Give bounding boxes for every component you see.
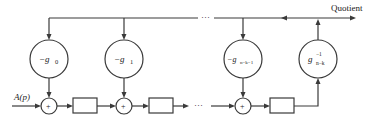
svg-text:+: +	[46, 102, 51, 111]
adder-1: +	[116, 98, 132, 114]
svg-text:+: +	[121, 102, 126, 111]
path-ellipsis: ···	[194, 100, 203, 110]
svg-text:−g: −g	[227, 55, 236, 64]
delay-element-0	[73, 98, 97, 113]
arrow-down-icon	[122, 34, 127, 40]
arrow-up-icon	[316, 78, 321, 84]
delay-element-1	[149, 98, 173, 113]
arrow-right-icon	[67, 104, 73, 109]
arrow-down-icon	[241, 92, 246, 98]
arrow-right-icon	[229, 104, 235, 109]
arrow-right-icon	[264, 104, 270, 109]
svg-text:0: 0	[55, 58, 58, 65]
division-circuit-diagram: ··· Quotient −g 0 −g 1 −g n−k−1 g −1 n−k	[0, 0, 365, 125]
svg-text:n−k−1: n−k−1	[240, 60, 254, 65]
arrow-up-icon	[316, 19, 321, 25]
delay-element-last	[270, 98, 294, 113]
multiplier-inverse-g-n-k: g −1 n−k	[299, 40, 337, 78]
multiplier-g1: −g 1	[105, 40, 143, 78]
arrow-down-icon	[47, 92, 52, 98]
adder-0: +	[41, 98, 57, 114]
arrow-right-icon	[35, 104, 41, 109]
quotient-label: Quotient	[331, 3, 363, 13]
arrow-down-icon	[47, 34, 52, 40]
input-label: A(p)	[13, 92, 30, 102]
svg-text:1: 1	[130, 58, 133, 65]
arrow-down-icon	[241, 34, 246, 40]
svg-text:−g: −g	[39, 54, 50, 64]
bus-ellipsis: ···	[201, 12, 210, 22]
svg-text:−1: −1	[316, 51, 322, 57]
svg-text:+: +	[240, 102, 245, 111]
arrow-right-icon	[183, 104, 189, 109]
multiplier-g-n-k-1: −g n−k−1	[224, 40, 262, 78]
feedback-bus: ···	[49, 12, 356, 22]
arrow-right-icon	[143, 104, 149, 109]
svg-text:n−k: n−k	[316, 60, 325, 66]
adder-n-k-1: +	[235, 98, 251, 114]
arrow-down-icon	[122, 92, 127, 98]
arrow-right-icon	[110, 104, 116, 109]
multiplier-g0: −g 0	[30, 40, 68, 78]
bus-left-arrow-icon	[281, 16, 287, 21]
svg-text:g: g	[308, 54, 313, 64]
svg-text:−g: −g	[114, 54, 125, 64]
quotient-arrow-icon	[350, 16, 356, 21]
